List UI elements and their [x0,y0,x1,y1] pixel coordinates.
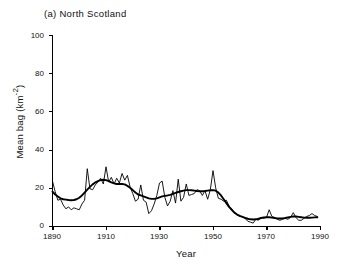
series-line-smoothed-trend [53,180,318,220]
plot-canvas [0,0,337,269]
series-line-annual-mean-bag [53,167,318,223]
chart-figure: (a) North Scotland Mean bag (km-2) Year … [0,0,337,269]
